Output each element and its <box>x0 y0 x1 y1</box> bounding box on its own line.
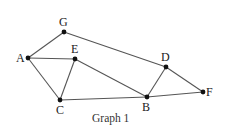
graph-diagram: AGECDBF Graph 1 <box>0 0 228 132</box>
node-a <box>26 56 31 61</box>
node-b <box>145 95 150 100</box>
node-f <box>201 90 206 95</box>
graph-node-labels: AGECDBF <box>16 15 213 117</box>
node-e <box>73 57 78 62</box>
node-d <box>164 65 169 70</box>
node-label-g: G <box>59 15 68 29</box>
edge-a-g <box>28 32 64 58</box>
graph-caption: Graph 1 <box>92 112 130 125</box>
node-label-b: B <box>142 100 150 114</box>
graph-edges <box>28 32 203 100</box>
node-label-d: D <box>161 50 170 64</box>
edge-b-f <box>147 92 203 97</box>
node-label-f: F <box>206 85 213 99</box>
edge-d-b <box>147 67 166 97</box>
edge-c-b <box>60 97 147 100</box>
node-label-c: C <box>56 103 64 117</box>
node-c <box>58 98 63 103</box>
edge-e-c <box>60 59 75 100</box>
node-label-a: A <box>16 51 25 65</box>
edge-a-c <box>28 58 60 100</box>
node-label-e: E <box>71 42 78 56</box>
edge-a-e <box>28 58 75 59</box>
edge-e-b <box>75 59 147 97</box>
edge-d-f <box>166 67 203 92</box>
node-g <box>62 30 67 35</box>
